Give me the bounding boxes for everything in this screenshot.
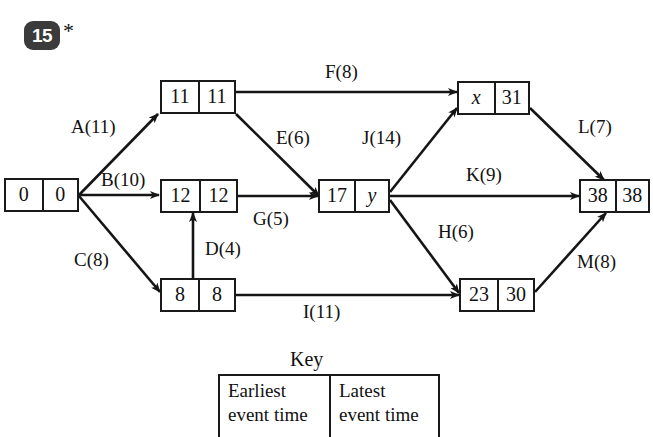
activity-label-D: D(4) — [205, 239, 241, 258]
activity-label-G: G(5) — [253, 209, 289, 228]
earliest-event-time: 23 — [461, 280, 497, 310]
activity-label-E: E(6) — [276, 128, 310, 147]
earliest-event-time: 0 — [6, 180, 42, 210]
activity-label-C: C(8) — [74, 250, 109, 269]
event-node-11: 11 11 — [160, 80, 236, 114]
edge-C — [79, 196, 160, 292]
activity-label-K: K(9) — [466, 165, 502, 184]
activity-label-L: L(7) — [578, 117, 612, 136]
key-table: Earliest event time Latest event time — [218, 374, 440, 437]
activity-label-J: J(14) — [362, 128, 401, 147]
activity-label-B: B(10) — [101, 170, 145, 189]
latest-event-time-unknown: y — [354, 181, 388, 211]
event-node-23: 23 30 — [459, 278, 535, 312]
activity-label-A: A(11) — [71, 117, 116, 136]
event-node-17: 17 y — [318, 179, 390, 213]
activity-label-I: I(11) — [303, 302, 340, 321]
earliest-event-time: 8 — [162, 280, 198, 310]
event-node-end: 38 38 — [579, 179, 650, 213]
edge-J — [390, 108, 457, 192]
activity-label-H: H(6) — [438, 222, 474, 241]
key-latest-line1: Latest — [339, 379, 430, 403]
latest-event-time: 12 — [199, 181, 236, 211]
diagram-canvas: 15 * — [0, 0, 653, 437]
activity-label-F: F(8) — [325, 62, 358, 81]
earliest-event-time-unknown: x — [459, 83, 494, 113]
event-node-8: 8 8 — [160, 278, 236, 312]
latest-event-time: 38 — [615, 181, 649, 211]
key-cell-earliest: Earliest event time — [220, 376, 329, 437]
earliest-event-time: 38 — [581, 181, 615, 211]
earliest-event-time: 12 — [162, 181, 199, 211]
event-node-12: 12 12 — [160, 179, 238, 213]
event-node-x31: x 31 — [457, 81, 530, 115]
key-latest-line2: event time — [339, 403, 430, 427]
latest-event-time: 30 — [497, 280, 533, 310]
earliest-event-time: 17 — [320, 181, 354, 211]
latest-event-time: 31 — [494, 83, 529, 113]
key-earliest-line2: event time — [228, 403, 321, 427]
key-title: Key — [290, 349, 323, 369]
key-cell-latest: Latest event time — [329, 376, 438, 437]
key-earliest-line1: Earliest — [228, 379, 321, 403]
latest-event-time: 11 — [198, 82, 234, 112]
edge-H — [390, 200, 459, 293]
latest-event-time: 0 — [42, 180, 78, 210]
event-node-start: 0 0 — [4, 178, 79, 212]
activity-label-M: M(8) — [577, 252, 616, 271]
latest-event-time: 8 — [198, 280, 234, 310]
earliest-event-time: 11 — [162, 82, 198, 112]
